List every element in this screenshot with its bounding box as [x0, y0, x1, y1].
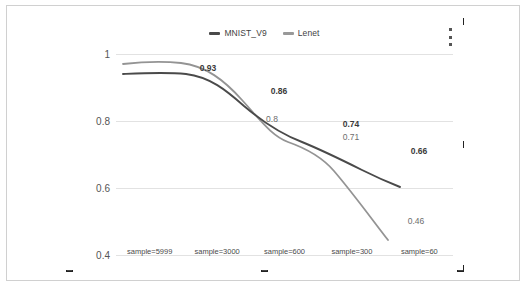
data-label-0-86: 0.86	[271, 86, 288, 96]
data-label-0-46: 0.46	[408, 216, 425, 226]
series-path-lenet	[123, 62, 388, 240]
data-label-0-8: 0.8	[266, 114, 278, 124]
series-curves	[66, 18, 463, 270]
data-label-0-66: 0.66	[411, 146, 428, 156]
x-axis-tick-sample-300: sample=300	[318, 247, 385, 256]
x-axis-tick-sample-3000: sample=3000	[183, 247, 250, 256]
plot-area: MNIST_V9 Lenet 1 0.8 0.6 0.4 0.93 0.86 0…	[66, 18, 463, 270]
data-label-0-71: 0.71	[343, 132, 360, 142]
x-axis-tick-sample-60: sample=60	[386, 247, 453, 256]
data-label-0-74: 0.74	[343, 119, 360, 129]
x-axis-labels: sample=5999 sample=3000 sample=600 sampl…	[116, 247, 453, 256]
series-path-mnist-v9	[123, 73, 400, 187]
x-axis-tick-sample-600: sample=600	[251, 247, 318, 256]
data-label-0-93: 0.93	[200, 63, 217, 73]
chart-object[interactable]: MNIST_V9 Lenet 1 0.8 0.6 0.4 0.93 0.86 0…	[66, 18, 463, 270]
x-axis-tick-sample-5999: sample=5999	[116, 247, 183, 256]
